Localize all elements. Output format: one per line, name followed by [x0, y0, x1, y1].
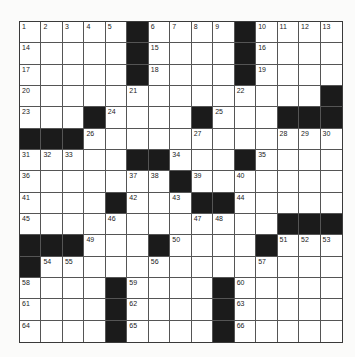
grid-cell[interactable]: [84, 321, 105, 342]
grid-cell[interactable]: [84, 43, 105, 64]
grid-cell[interactable]: [63, 299, 84, 320]
grid-cell[interactable]: 37: [127, 171, 148, 192]
grid-cell[interactable]: 19: [256, 65, 277, 86]
grid-cell[interactable]: [213, 150, 234, 171]
grid-cell[interactable]: [41, 214, 62, 235]
grid-cell[interactable]: [106, 65, 127, 86]
grid-cell[interactable]: 57: [256, 257, 277, 278]
grid-cell[interactable]: 14: [20, 43, 41, 64]
grid-cell[interactable]: [41, 299, 62, 320]
grid-cell[interactable]: [149, 107, 170, 128]
grid-cell[interactable]: [84, 193, 105, 214]
grid-cell[interactable]: [278, 171, 299, 192]
grid-cell[interactable]: [106, 43, 127, 64]
grid-cell[interactable]: [127, 257, 148, 278]
grid-cell[interactable]: [84, 214, 105, 235]
grid-cell[interactable]: [170, 107, 191, 128]
grid-cell[interactable]: [299, 299, 320, 320]
grid-cell[interactable]: 42: [127, 193, 148, 214]
grid-cell[interactable]: [235, 257, 256, 278]
grid-cell[interactable]: [127, 107, 148, 128]
grid-cell[interactable]: 4: [84, 22, 105, 43]
grid-cell[interactable]: [321, 257, 342, 278]
grid-cell[interactable]: [63, 278, 84, 299]
grid-cell[interactable]: 35: [256, 150, 277, 171]
grid-cell[interactable]: 45: [20, 214, 41, 235]
grid-cell[interactable]: [321, 65, 342, 86]
grid-cell[interactable]: [41, 43, 62, 64]
grid-cell[interactable]: [63, 193, 84, 214]
grid-cell[interactable]: [192, 321, 213, 342]
grid-cell[interactable]: [278, 321, 299, 342]
grid-cell[interactable]: [63, 171, 84, 192]
grid-cell[interactable]: [213, 257, 234, 278]
grid-cell[interactable]: [299, 257, 320, 278]
grid-cell[interactable]: 52: [299, 235, 320, 256]
grid-cell[interactable]: [299, 86, 320, 107]
grid-cell[interactable]: [278, 278, 299, 299]
grid-cell[interactable]: [170, 214, 191, 235]
grid-cell[interactable]: [321, 321, 342, 342]
grid-cell[interactable]: [170, 278, 191, 299]
grid-cell[interactable]: 30: [321, 129, 342, 150]
grid-cell[interactable]: [84, 171, 105, 192]
grid-cell[interactable]: [299, 321, 320, 342]
grid-cell[interactable]: 12: [299, 22, 320, 43]
grid-cell[interactable]: [235, 235, 256, 256]
grid-cell[interactable]: [149, 214, 170, 235]
grid-cell[interactable]: [299, 278, 320, 299]
grid-cell[interactable]: 62: [127, 299, 148, 320]
grid-cell[interactable]: [256, 214, 277, 235]
grid-cell[interactable]: 7: [170, 22, 191, 43]
grid-cell[interactable]: 28: [278, 129, 299, 150]
grid-cell[interactable]: 36: [20, 171, 41, 192]
grid-cell[interactable]: 44: [235, 193, 256, 214]
grid-cell[interactable]: [149, 86, 170, 107]
grid-cell[interactable]: [127, 129, 148, 150]
grid-cell[interactable]: 21: [127, 86, 148, 107]
grid-cell[interactable]: 60: [235, 278, 256, 299]
grid-cell[interactable]: 24: [106, 107, 127, 128]
grid-cell[interactable]: 1: [20, 22, 41, 43]
grid-cell[interactable]: [149, 299, 170, 320]
grid-cell[interactable]: [170, 86, 191, 107]
grid-cell[interactable]: [63, 43, 84, 64]
grid-cell[interactable]: [299, 65, 320, 86]
grid-cell[interactable]: [84, 257, 105, 278]
grid-cell[interactable]: 54: [41, 257, 62, 278]
grid-cell[interactable]: [278, 86, 299, 107]
grid-cell[interactable]: 50: [170, 235, 191, 256]
grid-cell[interactable]: [299, 150, 320, 171]
grid-cell[interactable]: [213, 43, 234, 64]
grid-cell[interactable]: [84, 65, 105, 86]
grid-cell[interactable]: [278, 299, 299, 320]
grid-cell[interactable]: [149, 193, 170, 214]
grid-cell[interactable]: [213, 235, 234, 256]
grid-cell[interactable]: 53: [321, 235, 342, 256]
grid-cell[interactable]: 34: [170, 150, 191, 171]
grid-cell[interactable]: 38: [149, 171, 170, 192]
grid-cell[interactable]: 15: [149, 43, 170, 64]
grid-cell[interactable]: 9: [213, 22, 234, 43]
grid-cell[interactable]: [149, 129, 170, 150]
grid-cell[interactable]: 55: [63, 257, 84, 278]
grid-cell[interactable]: [149, 278, 170, 299]
grid-cell[interactable]: [192, 257, 213, 278]
grid-cell[interactable]: [192, 299, 213, 320]
grid-cell[interactable]: [213, 171, 234, 192]
grid-cell[interactable]: [170, 257, 191, 278]
grid-cell[interactable]: [84, 299, 105, 320]
grid-cell[interactable]: 41: [20, 193, 41, 214]
grid-cell[interactable]: [170, 321, 191, 342]
grid-cell[interactable]: 11: [278, 22, 299, 43]
grid-cell[interactable]: [84, 86, 105, 107]
grid-cell[interactable]: 31: [20, 150, 41, 171]
grid-cell[interactable]: [170, 129, 191, 150]
grid-cell[interactable]: [321, 171, 342, 192]
grid-cell[interactable]: 33: [63, 150, 84, 171]
grid-cell[interactable]: 46: [106, 214, 127, 235]
grid-cell[interactable]: 10: [256, 22, 277, 43]
grid-cell[interactable]: [213, 86, 234, 107]
grid-cell[interactable]: 25: [213, 107, 234, 128]
grid-cell[interactable]: [256, 299, 277, 320]
